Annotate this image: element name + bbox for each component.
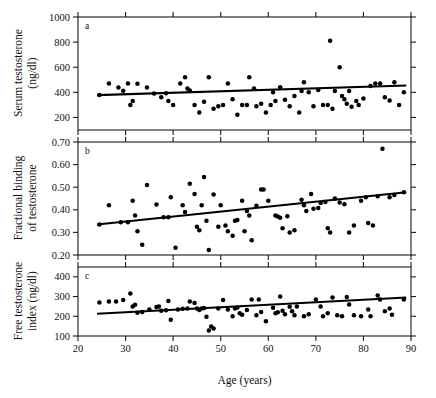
ytick-label-b-4: 0.60: [52, 159, 70, 170]
datapoint: [171, 103, 176, 108]
datapoint: [292, 313, 297, 318]
datapoint: [240, 103, 245, 108]
panel-b-frame: [78, 142, 411, 255]
xtick-label-5: 70: [311, 343, 322, 354]
datapoint: [254, 104, 259, 109]
datapoint: [230, 314, 235, 319]
datapoint: [387, 98, 392, 103]
datapoint: [216, 225, 221, 230]
datapoint: [202, 175, 207, 180]
datapoint: [292, 228, 297, 233]
datapoint: [264, 319, 269, 324]
xtick-label-3: 50: [215, 343, 226, 354]
datapoint: [368, 314, 373, 319]
datapoint: [285, 214, 290, 219]
datapoint: [345, 101, 350, 106]
datapoint: [287, 104, 292, 109]
panel-letter-b: b: [85, 146, 90, 156]
datapoint: [197, 228, 202, 233]
datapoint: [240, 199, 245, 204]
ytick-label-a-2: 600: [54, 62, 70, 73]
datapoint: [140, 243, 145, 248]
datapoint: [359, 314, 364, 319]
ytick-label-a-0: 200: [54, 112, 70, 123]
datapoint: [188, 182, 193, 187]
datapoint: [278, 215, 283, 220]
ylabel-c-line0: Free testosterone: [12, 262, 24, 340]
datapoint: [359, 199, 364, 204]
ytick-label-a-1: 400: [54, 87, 70, 98]
datapoint: [392, 80, 397, 85]
datapoint: [311, 104, 316, 109]
datapoint: [356, 103, 361, 108]
datapoint: [249, 297, 254, 302]
ytick-label-c-1: 200: [54, 311, 70, 322]
regression-line-b: [97, 192, 406, 224]
datapoint: [230, 97, 235, 102]
datapoint: [321, 314, 326, 319]
datapoint: [278, 294, 283, 299]
panel-letter-c: c: [85, 271, 89, 281]
datapoint: [290, 309, 295, 314]
datapoint: [304, 209, 309, 214]
datapoint: [145, 183, 150, 188]
datapoint: [197, 110, 202, 115]
datapoint: [133, 303, 138, 308]
datapoint: [326, 103, 331, 108]
datapoint: [302, 80, 307, 85]
datapoint: [349, 105, 354, 110]
datapoint: [283, 98, 288, 103]
datapoint: [380, 147, 385, 152]
datapoint: [218, 203, 223, 208]
datapoint: [254, 313, 259, 318]
datapoint: [383, 95, 388, 100]
regression-line-a: [97, 85, 406, 95]
datapoint: [347, 230, 352, 235]
ylabel-a-line0: Serum testosterone: [12, 29, 24, 117]
datapoint: [283, 312, 288, 317]
datapoint: [335, 313, 340, 318]
datapoint: [235, 112, 240, 117]
datapoint: [157, 304, 162, 309]
datapoint: [204, 218, 209, 223]
datapoint: [326, 226, 331, 231]
datapoint: [116, 85, 121, 90]
datapoint: [402, 90, 407, 95]
panel-b: b0.200.300.400.500.600.70Fractional bind…: [12, 137, 416, 261]
datapoint: [352, 223, 357, 228]
datapoint: [333, 89, 338, 94]
datapoint: [266, 199, 271, 204]
datapoint: [211, 326, 216, 331]
ytick-label-b-3: 0.50: [52, 182, 70, 193]
xlabel: Age (years): [218, 374, 272, 387]
xtick-label-6: 80: [358, 343, 369, 354]
datapoint: [383, 309, 388, 314]
datapoint: [235, 218, 240, 223]
datapoint: [130, 99, 135, 104]
datapoint: [361, 96, 366, 101]
datapoint: [378, 81, 383, 86]
datapoint: [166, 299, 171, 304]
datapoint: [352, 313, 357, 318]
datapoint: [371, 223, 376, 228]
datapoint: [166, 99, 171, 104]
datapoint: [366, 307, 371, 312]
datapoint: [121, 298, 126, 303]
datapoint: [211, 106, 216, 111]
datapoint: [128, 291, 133, 296]
ytick-label-b-0: 0.20: [52, 250, 70, 261]
datapoint: [259, 101, 264, 106]
datapoint: [299, 197, 304, 202]
datapoint: [273, 99, 278, 104]
datapoint: [154, 202, 159, 207]
datapoint: [309, 192, 314, 197]
xtick-label-4: 60: [263, 343, 274, 354]
datapoint: [318, 304, 323, 309]
datapoint: [330, 295, 335, 300]
datapoint: [169, 195, 174, 200]
datapoints-b: [97, 147, 406, 253]
testosterone-vs-age-figure: a2004006008001000Serum testosterone(ng/d…: [0, 0, 436, 398]
datapoint: [397, 103, 402, 108]
datapoint: [226, 229, 231, 234]
datapoint: [242, 229, 247, 234]
